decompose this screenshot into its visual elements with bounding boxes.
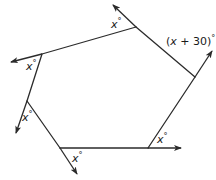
hexagon-exterior-angles-diagram (0, 0, 216, 180)
angle-variable: x (26, 60, 33, 73)
angle-variable: x (111, 18, 118, 31)
degree-symbol: ° (79, 151, 83, 160)
angle-variable: x (22, 111, 29, 124)
exterior-ray-arrow-icon (195, 51, 212, 77)
hexagon-side (42, 27, 136, 54)
angle-label-bottom-left: x° (72, 153, 83, 164)
angle-label-top: x° (111, 19, 122, 30)
degree-symbol: ° (211, 34, 215, 43)
angle-variable: x (157, 133, 164, 146)
angle-label-bottom-right: x° (157, 134, 168, 145)
degree-symbol: ° (118, 17, 122, 26)
hexagon-side (27, 101, 60, 148)
hexagon-side (148, 77, 195, 148)
degree-symbol: ° (29, 110, 33, 119)
degree-symbol: ° (164, 132, 168, 141)
angle-label-right: (x + 30)° (166, 36, 215, 47)
angle-variable: x (72, 152, 79, 165)
angle-expression-rest: + 30) (177, 35, 212, 48)
angle-label-left-top: x° (26, 61, 37, 72)
angle-label-left-bottom: x° (22, 112, 33, 123)
degree-symbol: ° (33, 59, 37, 68)
